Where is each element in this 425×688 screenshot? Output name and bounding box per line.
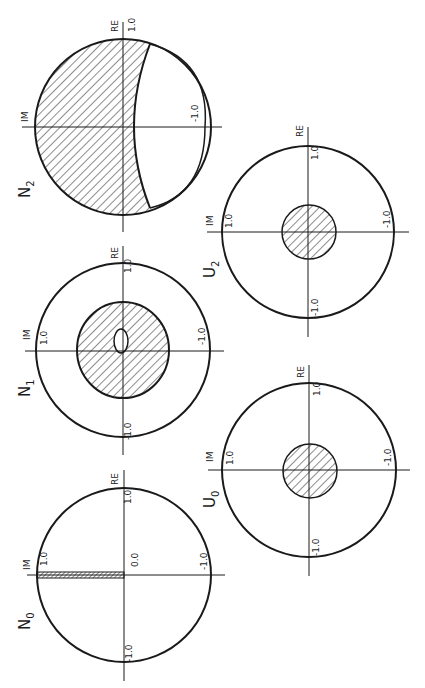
panel-n0: RE 1.0 IM 1.0 0.0 -1.0 -1.0 N0 [16, 470, 225, 681]
u2-tick-im-1: 1.0 [224, 213, 234, 228]
n0-tick-re-neg1: -1.0 [124, 644, 134, 662]
panel-n2: RE 1.0 IM -1.0 N2 [16, 17, 222, 232]
u2-tick-re-neg1: -1.0 [310, 298, 320, 316]
n0-tick-re-1: 1.0 [123, 489, 133, 504]
u0-im-label: IM [205, 452, 215, 462]
n1-tick-re-1: 1.0 [123, 258, 133, 273]
n2-tick-1: 1.0 [127, 17, 137, 32]
n2-im-label: IM [20, 112, 30, 122]
u2-im-label: IM [205, 216, 215, 226]
n0-tick-origin: 0.0 [130, 552, 140, 567]
u2-tick-im-neg1: -1.0 [382, 210, 392, 228]
n2-re-label: RE [110, 20, 120, 32]
u0-re-label: RE [296, 366, 306, 378]
u0-hatched-region [283, 444, 337, 498]
n1-im-label: IM [22, 330, 32, 340]
panel-u0: RE 1.0 IM 1.0 -1.0 -1.0 U0 [201, 365, 410, 576]
u0-tick-re-neg1: -1.0 [311, 538, 321, 556]
n0-im-label: IM [22, 560, 32, 570]
u0-tick-re-1: 1.0 [312, 381, 322, 396]
n2-tick-neg1: -1.0 [190, 104, 200, 122]
complex-plane-diagram: RE 1.0 IM -1.0 N2 RE 1.0 IM 1.0 -1.0 -1.… [0, 0, 425, 688]
n0-tick-im-neg1: -1.0 [199, 552, 209, 570]
n2-title: N2 [16, 180, 36, 198]
u2-re-label: RE [295, 125, 305, 137]
panel-n1: RE 1.0 IM 1.0 -1.0 -1.0 N1 [16, 246, 224, 455]
n2-unhatched-lens [134, 44, 210, 208]
u2-title: U2 [201, 261, 221, 278]
u0-tick-im-neg1: -1.0 [383, 448, 393, 466]
panel-u2: RE 1.0 IM 1.0 -1.0 -1.0 U2 [201, 125, 409, 337]
n1-re-label: RE [110, 247, 120, 259]
n0-tick-im-1: 1.0 [39, 551, 49, 566]
u2-tick-re-1: 1.0 [310, 145, 320, 160]
u0-title: U0 [201, 491, 221, 508]
n1-tick-re-neg1: -1.0 [123, 422, 133, 440]
n1-tick-im-1: 1.0 [39, 330, 49, 345]
u0-tick-im-1: 1.0 [225, 450, 235, 465]
n1-title: N1 [16, 379, 36, 397]
n1-hole [114, 329, 128, 353]
n1-tick-im-neg1: -1.0 [197, 327, 207, 345]
n0-title: N0 [16, 612, 36, 630]
n0-re-label: RE [110, 473, 120, 485]
